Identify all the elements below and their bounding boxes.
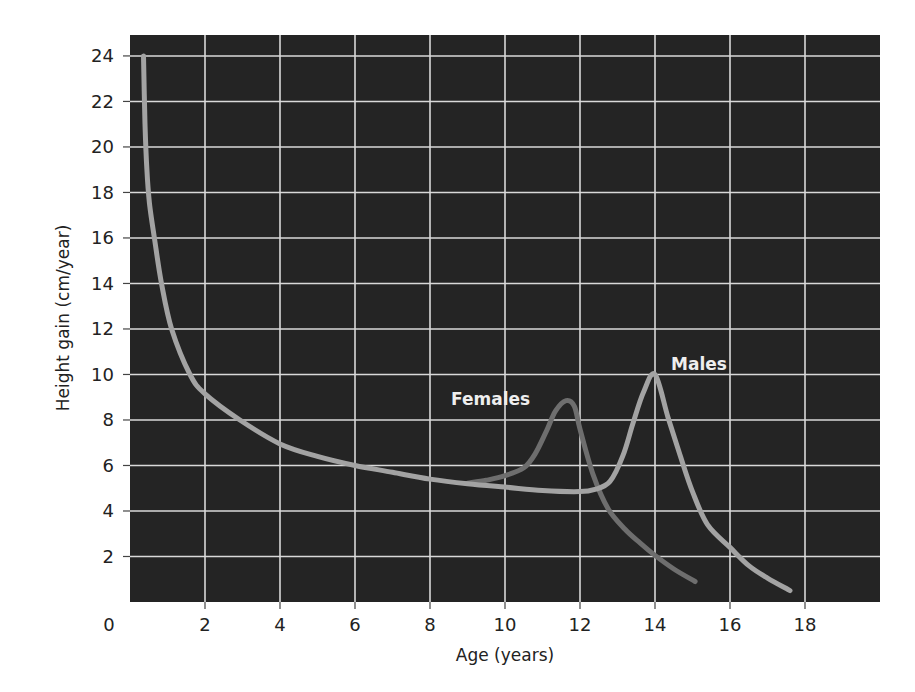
x-tick-label: 4 [274, 614, 285, 635]
x-tick-label: 18 [794, 614, 817, 635]
y-tick-label: 4 [103, 500, 114, 521]
males-label: Males [671, 354, 727, 374]
y-tick-label: 6 [103, 455, 114, 476]
y-tick-label: 8 [103, 409, 114, 430]
females-label: Females [451, 389, 530, 409]
x-tick-label: 14 [644, 614, 667, 635]
height-gain-chart: 24681012141618 24681012141618202224 Fema… [0, 0, 915, 692]
x-tick-label: 16 [719, 614, 742, 635]
y-tick-label: 10 [91, 364, 114, 385]
y-tick-label: 24 [91, 45, 114, 66]
y-tick-label: 14 [91, 273, 114, 294]
x-tick-label: 8 [424, 614, 435, 635]
x-tick-label: 6 [349, 614, 360, 635]
y-tick-label: 2 [103, 546, 114, 567]
x-tick-label: 12 [569, 614, 592, 635]
y-axis-title: Height gain (cm/year) [53, 225, 73, 412]
x-tick-label: 10 [494, 614, 517, 635]
x-tick-label: 2 [199, 614, 210, 635]
origin-label: 0 [103, 614, 114, 635]
x-axis-title: Age (years) [456, 645, 554, 665]
y-tick-label: 18 [91, 182, 114, 203]
y-tick-label: 20 [91, 136, 114, 157]
y-axis-tick-labels: 24681012141618202224 [91, 45, 114, 567]
y-tick-label: 16 [91, 227, 114, 248]
y-tick-label: 22 [91, 91, 114, 112]
x-axis-tick-labels: 24681012141618 [199, 614, 816, 635]
y-tick-label: 12 [91, 318, 114, 339]
